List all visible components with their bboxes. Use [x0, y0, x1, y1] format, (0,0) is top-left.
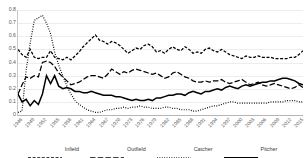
plot-area — [17, 10, 303, 116]
x-axis-tick-label: 1997 — [220, 117, 231, 128]
x-axis-tick-label: 2009 — [269, 117, 280, 128]
series-line-infield — [18, 35, 303, 60]
x-axis-tick-label: 1979 — [146, 117, 157, 128]
x-axis-tick-label: 1976 — [134, 117, 145, 128]
chart-legend: InfieldOutfieldCatcherPitcher — [0, 141, 305, 158]
x-axis-tick-label: 1958 — [61, 117, 72, 128]
x-axis-tick-label: 2006 — [256, 117, 267, 128]
x-axis-tick-label: 1991 — [195, 117, 206, 128]
legend-label: Catcher — [194, 147, 213, 152]
x-axis-tick-label: 1961 — [73, 117, 84, 128]
x-axis-tick-label: 1949 — [24, 117, 35, 128]
y-axis-tick-label: 0.3 — [9, 73, 16, 78]
line-chart: 0.80.70.60.50.40.30.20.10 19461949195219… — [0, 0, 305, 158]
legend-swatch-outfield-icon — [90, 147, 124, 153]
x-axis-tick-label: 2015 — [293, 117, 304, 128]
x-axis-tick-label: 1985 — [171, 117, 182, 128]
x-axis-tick-label: 1988 — [183, 117, 194, 128]
x-axis-tick-label: 1964 — [85, 117, 96, 128]
y-axis-tick-label: 0.6 — [9, 34, 16, 39]
x-axis-tick-label: 2003 — [244, 117, 255, 128]
y-axis-tick-label: 0 — [13, 112, 16, 117]
legend-swatch-catcher-icon — [157, 147, 191, 153]
x-axis-tick-label: 1994 — [208, 117, 219, 128]
y-axis-tick-label: 0.5 — [9, 47, 16, 52]
series-line-outfield — [18, 61, 303, 94]
legend-label: Outfield — [127, 147, 146, 152]
x-axis: 1946194919521955195819611964196719701973… — [17, 117, 303, 140]
legend-item-infield[interactable]: Infield — [28, 147, 79, 153]
legend-swatch-pitcher-icon — [224, 147, 258, 153]
legend-swatch-infield-icon — [28, 147, 62, 153]
y-axis-tick-label: 0.1 — [9, 99, 16, 104]
x-axis-tick-label: 1955 — [49, 117, 60, 128]
legend-label: Infield — [65, 147, 79, 152]
series-line-pitcher — [18, 76, 303, 106]
legend-item-catcher[interactable]: Catcher — [157, 147, 213, 153]
legend-item-pitcher[interactable]: Pitcher — [224, 147, 278, 153]
series-layer — [18, 10, 303, 115]
x-axis-tick-label: 1973 — [122, 117, 133, 128]
legend-label: Pitcher — [261, 147, 278, 152]
x-axis-tick-label: 2012 — [281, 117, 292, 128]
y-axis-tick-label: 0.8 — [9, 7, 16, 12]
x-axis-tick-label: 1982 — [159, 117, 170, 128]
x-axis-tick-label: 1967 — [98, 117, 109, 128]
legend-item-outfield[interactable]: Outfield — [90, 147, 146, 153]
x-axis-tick-label: 1970 — [110, 117, 121, 128]
y-axis-tick-label: 0.7 — [9, 21, 16, 26]
y-axis: 0.80.70.60.50.40.30.20.10 — [0, 10, 16, 116]
y-axis-tick-label: 0.4 — [9, 60, 16, 65]
x-axis-tick-label: 2000 — [232, 117, 243, 128]
y-axis-tick-label: 0.2 — [9, 86, 16, 91]
x-axis-tick-label: 1952 — [37, 117, 48, 128]
